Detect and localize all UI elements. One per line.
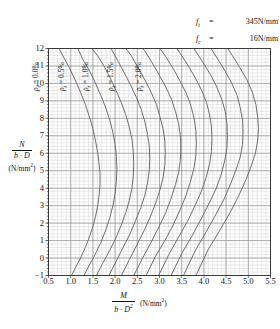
rho-symbol: ρ (57, 87, 66, 91)
y-axis-numerator: N (12, 140, 32, 151)
steel-strength-row: ft=345N/mm2 (196, 13, 279, 30)
x-tick-label: 5.5 (254, 277, 280, 286)
rho-symbol: ρ (134, 87, 143, 91)
y-tick-label: 0 (14, 254, 44, 263)
chart-figure: 1211109876543210−1 0.51.01.52.02.53.03.5… (0, 0, 279, 329)
x-axis-unit: (N/mm2) (140, 296, 167, 308)
fc-value: 16N/mm2 (219, 30, 279, 44)
y-tick-label: 12 (14, 44, 44, 53)
x-axis-title: M b · D2 (N/mm2) (0, 291, 279, 314)
ft-symbol: ft (196, 16, 209, 31)
rho-symbol: ρ (106, 87, 115, 91)
x-axis-denominator: b · D2 (112, 302, 135, 314)
x-axis-numerator: M (112, 291, 135, 302)
rho-symbol: ρ (81, 87, 90, 91)
concrete-strength-row: fc=16N/mm2 (196, 30, 279, 47)
rho-value: = 1.5% (106, 62, 115, 86)
rho-value: = 0.0% (31, 62, 40, 86)
y-axis-title: N b · D (N/mm2) (0, 140, 44, 173)
fc-symbol: fc (196, 33, 209, 48)
rho-subscript: t (138, 86, 144, 88)
y-tick-label: 7 (14, 131, 44, 140)
rho-subscript: t (111, 86, 117, 88)
rho-value: = 2.0% (134, 62, 143, 86)
rho-subscript: t (86, 86, 92, 88)
y-tick-label: 2 (14, 219, 44, 228)
y-axis-unit: (N/mm2) (0, 161, 44, 173)
rho-symbol: ρ (31, 87, 40, 91)
ft-value: 345N/mm2 (219, 13, 279, 27)
rho-value: = 0.5% (57, 62, 66, 86)
ft-equals: = (209, 16, 219, 27)
x-axis-tick-labels: 0.51.01.52.02.53.03.54.04.55.05.5 (0, 277, 279, 291)
rho-subscript: t (35, 86, 41, 88)
fc-equals: = (209, 33, 219, 44)
y-axis-denominator: b · D (12, 151, 32, 161)
rho-label-4: ρt = 2.0% (135, 62, 181, 91)
y-tick-label: 8 (14, 114, 44, 123)
rho-value: = 1.0% (81, 62, 90, 86)
y-tick-label: 3 (14, 201, 44, 210)
y-tick-label: 1 (14, 236, 44, 245)
material-properties-note: ft=345N/mm2 fc=16N/mm2 (196, 13, 279, 48)
rho-subscript: t (62, 86, 68, 88)
y-tick-label: 9 (14, 96, 44, 105)
y-tick-label: 4 (14, 184, 44, 193)
